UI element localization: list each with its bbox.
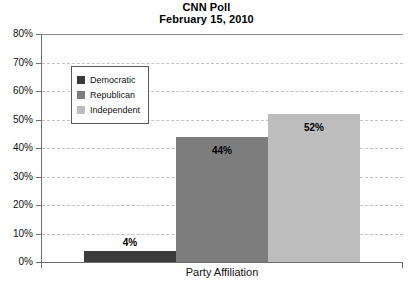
y-axis-tick-label: 80% [0,29,33,39]
y-axis-tick-label: 0% [0,257,33,267]
legend-label: Democratic [90,76,136,85]
chart-title: CNN Poll [0,1,413,13]
legend-swatch-icon [77,91,85,99]
chart-container: CNN Poll February 15, 2010 0%10%20%30%40… [0,0,413,288]
bar-value-label: 44% [176,145,268,156]
legend-item-independent: Independent [77,103,140,117]
bar-democratic[interactable] [84,251,176,262]
legend-item-republican: Republican [77,88,140,102]
y-axis-tick-label: 40% [0,143,33,153]
x-axis-title: Party Affiliation [41,266,403,278]
legend-label: Independent [90,106,140,115]
bar-independent[interactable] [268,114,360,262]
y-axis-tick-label: 30% [0,172,33,182]
legend-swatch-icon [77,76,85,84]
y-axis-tick-label: 10% [0,229,33,239]
chart-subtitle: February 15, 2010 [0,13,413,26]
y-axis-tick-label: 70% [0,58,33,68]
legend-label: Republican [90,91,135,100]
legend-item-democratic: Democratic [77,73,140,87]
x-axis-line [41,262,403,263]
y-axis-tick-label: 60% [0,86,33,96]
y-axis-tick-label: 20% [0,200,33,210]
legend-swatch-icon [77,106,85,114]
chart-legend: Democratic Republican Independent [71,66,149,124]
bar-value-label: 4% [84,237,176,248]
bar-value-label: 52% [268,122,360,133]
y-axis-tick-label: 50% [0,115,33,125]
chart-title-block: CNN Poll February 15, 2010 [0,1,413,26]
